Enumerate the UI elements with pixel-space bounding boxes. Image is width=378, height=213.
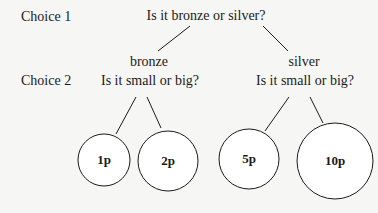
coin-1p-label: 1p xyxy=(97,152,111,167)
silver-question: Is it small or big? xyxy=(256,73,354,88)
root-question: Is it bronze or silver? xyxy=(147,8,266,23)
branch-label-bronze: bronze xyxy=(130,54,168,69)
coin-1p: 1p xyxy=(78,134,130,186)
coin-5p-label: 5p xyxy=(242,151,256,166)
connector-bronze-2p xyxy=(147,97,161,128)
bronze-question: Is it small or big? xyxy=(101,73,199,88)
choice-1-label: Choice 1 xyxy=(21,9,71,24)
coin-10p: 10p xyxy=(297,123,373,199)
connector-silver-10p xyxy=(310,97,323,123)
coin-5p: 5p xyxy=(219,129,279,189)
connector-silver-5p xyxy=(265,97,289,131)
branch-label-silver: silver xyxy=(288,54,319,69)
coin-2p: 2p xyxy=(138,131,198,191)
connector-root-bronze xyxy=(158,26,190,51)
choice-2-label: Choice 2 xyxy=(21,73,71,88)
connector-bronze-1p xyxy=(116,97,136,134)
coin-decision-tree: Choice 1 Choice 2 Is it bronze or silver… xyxy=(0,0,378,213)
connector-root-silver xyxy=(263,26,288,51)
coin-2p-label: 2p xyxy=(161,153,175,168)
coin-10p-label: 10p xyxy=(325,153,345,168)
